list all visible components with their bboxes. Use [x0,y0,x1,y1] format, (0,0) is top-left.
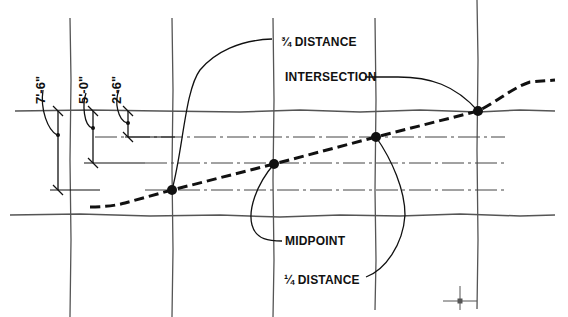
dimension-lines [42,90,133,195]
projection-lines [95,137,505,190]
three-quarter-distance-label: ¾ DISTANCE [281,35,357,49]
dashed-path [90,80,555,207]
dimension-5-0: 5'-0" [76,76,91,104]
dimension-2-6: 2'-6" [109,76,124,104]
one-quarter-distance-label: ¼ DISTANCE [284,273,360,287]
dimension-7-6: 7'-6" [33,76,48,104]
intersection-label: INTERSECTION [285,70,377,84]
vertical-grid-lines [70,0,478,317]
crosshair-cursor [443,286,477,310]
midpoint-label: MIDPOINT [285,234,345,248]
